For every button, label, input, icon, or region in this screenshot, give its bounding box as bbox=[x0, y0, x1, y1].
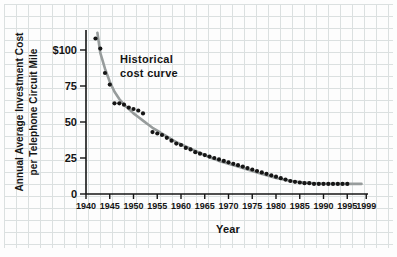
y-tick-label: 50 bbox=[65, 116, 77, 128]
y-axis-title-line1: Annual Average Investment Cost bbox=[14, 32, 25, 192]
x-tick-label: 1945 bbox=[100, 201, 120, 211]
data-point bbox=[340, 182, 344, 186]
chart-canvas: $1007550250 1940194519501955196019651970… bbox=[0, 0, 397, 257]
data-point bbox=[283, 178, 287, 182]
x-tick-label: 1955 bbox=[147, 201, 167, 211]
data-point bbox=[222, 159, 226, 163]
data-point bbox=[241, 165, 245, 169]
data-point bbox=[298, 180, 302, 184]
data-point bbox=[274, 175, 278, 179]
data-point bbox=[250, 167, 254, 171]
data-point bbox=[293, 180, 297, 184]
x-axis-title: Year bbox=[216, 223, 241, 235]
x-tick-label: 1975 bbox=[242, 201, 262, 211]
x-tick-label: 1950 bbox=[123, 201, 143, 211]
x-axis-ticks: 1940194519501955196019651970197519801985… bbox=[76, 194, 376, 211]
cost-curve-chart: $1007550250 1940194519501955196019651970… bbox=[0, 0, 397, 257]
data-point bbox=[198, 152, 202, 156]
data-point bbox=[155, 131, 159, 135]
data-point bbox=[117, 101, 121, 105]
data-point bbox=[165, 136, 169, 140]
data-point bbox=[236, 163, 240, 167]
data-point bbox=[336, 182, 340, 186]
data-point bbox=[307, 181, 311, 185]
y-tick-label: 0 bbox=[71, 188, 77, 200]
x-tick-label: 1970 bbox=[218, 201, 238, 211]
data-point bbox=[326, 182, 330, 186]
x-tick-label: 1940 bbox=[76, 201, 96, 211]
data-point bbox=[93, 36, 97, 40]
data-point bbox=[184, 146, 188, 150]
y-tick-label: 25 bbox=[65, 152, 77, 164]
data-point bbox=[108, 83, 112, 87]
data-point bbox=[288, 179, 292, 183]
annotation-line1: Historical bbox=[120, 53, 173, 65]
data-point bbox=[169, 139, 173, 143]
data-point bbox=[98, 47, 102, 51]
data-point bbox=[160, 133, 164, 137]
annotation-line2: cost curve bbox=[120, 67, 178, 79]
data-point bbox=[321, 182, 325, 186]
x-tick-label: 1980 bbox=[266, 201, 286, 211]
data-point bbox=[226, 160, 230, 164]
data-point bbox=[269, 173, 273, 177]
data-point bbox=[179, 143, 183, 147]
data-point bbox=[345, 182, 349, 186]
x-tick-label: 1999 bbox=[356, 201, 376, 211]
data-point bbox=[193, 150, 197, 154]
data-point bbox=[264, 172, 268, 176]
data-point bbox=[260, 170, 264, 174]
data-point bbox=[207, 155, 211, 159]
data-point bbox=[331, 182, 335, 186]
data-point bbox=[112, 101, 116, 105]
data-point bbox=[203, 153, 207, 157]
data-point bbox=[188, 147, 192, 151]
data-point bbox=[317, 182, 321, 186]
data-point bbox=[131, 107, 135, 111]
data-point bbox=[302, 181, 306, 185]
data-point bbox=[312, 182, 316, 186]
data-point bbox=[141, 111, 145, 115]
y-axis-title-line2: per Telephone Circuit Mile bbox=[28, 48, 39, 175]
x-tick-label: 1995 bbox=[337, 201, 357, 211]
x-tick-label: 1990 bbox=[313, 201, 333, 211]
data-point bbox=[127, 106, 131, 110]
data-point bbox=[136, 108, 140, 112]
y-tick-label: $100 bbox=[53, 44, 77, 56]
data-point bbox=[279, 176, 283, 180]
data-point bbox=[255, 169, 259, 173]
data-point bbox=[217, 157, 221, 161]
data-point bbox=[245, 166, 249, 170]
x-tick-label: 1960 bbox=[171, 201, 191, 211]
data-point bbox=[150, 130, 154, 134]
data-point bbox=[212, 156, 216, 160]
x-tick-label: 1965 bbox=[195, 201, 215, 211]
y-axis-ticks: $1007550250 bbox=[53, 44, 86, 200]
data-point bbox=[122, 103, 126, 107]
data-point bbox=[174, 142, 178, 146]
y-tick-label: 75 bbox=[65, 80, 77, 92]
data-point bbox=[231, 162, 235, 166]
data-point bbox=[103, 71, 107, 75]
x-tick-label: 1985 bbox=[290, 201, 310, 211]
